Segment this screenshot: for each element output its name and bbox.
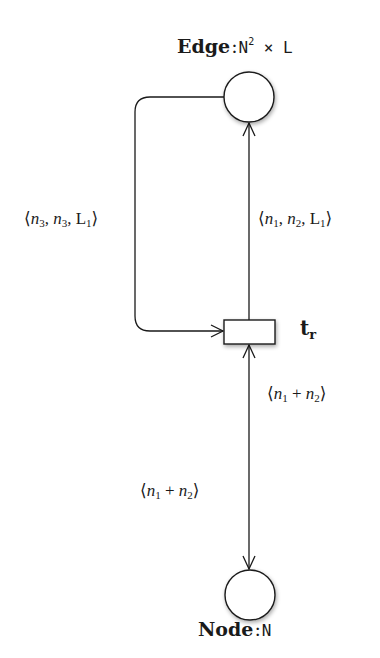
place-edge[interactable]: [224, 72, 274, 122]
arc-label-node-in: ⟨n1 + n2⟩: [267, 385, 326, 404]
place-node-type: N: [262, 621, 272, 640]
arc-label-to-edge: ⟨n1, n2, L1⟩: [258, 210, 332, 229]
petri-net-diagram: [0, 0, 380, 658]
transition-tr[interactable]: [224, 320, 275, 344]
place-edge-type: N2 × L: [239, 38, 293, 57]
arc-label-left-loop: ⟨n3, n3, L1⟩: [24, 210, 98, 229]
place-node[interactable]: [225, 570, 275, 620]
arc-edge-to-transition: [135, 97, 224, 331]
transition-tr-label: tr: [300, 318, 316, 341]
place-node-name: Node: [198, 618, 253, 640]
place-edge-label: Edge:N2 × L: [177, 37, 293, 56]
arc-label-node-out: ⟨n1 + n2⟩: [140, 482, 199, 501]
place-node-label: Node:N: [198, 620, 271, 639]
place-edge-name: Edge: [177, 35, 230, 57]
